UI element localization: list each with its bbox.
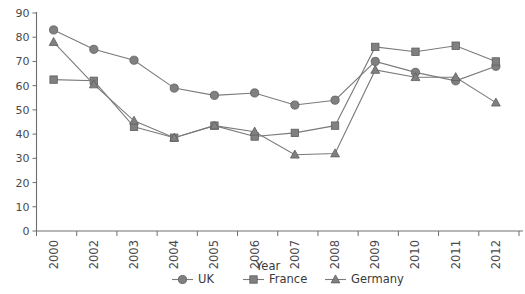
legend-item-uk[interactable]: UK <box>172 272 214 286</box>
series-line <box>54 46 496 138</box>
series-uk <box>50 26 500 109</box>
legend-label: Germany <box>351 272 404 286</box>
y-tick-label: 70 <box>16 55 30 68</box>
data-point-circle <box>331 96 339 104</box>
chart-canvas: 0102030405060708090 20002002200320042005… <box>0 0 525 294</box>
data-point-circle <box>178 275 186 283</box>
y-tick-label: 20 <box>16 177 30 190</box>
chart-legend: UKFranceGermany <box>172 272 404 286</box>
y-tick-label: 30 <box>16 152 30 165</box>
data-point-square <box>412 48 419 55</box>
x-tick-label: 2007 <box>288 240 302 269</box>
data-point-circle <box>210 91 218 99</box>
data-point-circle <box>251 89 259 97</box>
x-tick-label: 2000 <box>47 240 61 269</box>
data-point-square <box>50 76 57 83</box>
y-tick-label: 40 <box>16 128 30 141</box>
x-tick-label: 2010 <box>408 240 422 269</box>
data-point-square <box>291 129 298 136</box>
y-tick-label: 0 <box>23 225 30 238</box>
y-tick-label: 60 <box>16 80 30 93</box>
x-tick-label: 2003 <box>127 240 141 269</box>
data-point-circle <box>170 84 178 92</box>
y-axis: 0102030405060708090 <box>16 7 37 238</box>
data-point-triangle <box>331 275 340 283</box>
data-point-square <box>492 58 499 65</box>
data-point-triangle <box>371 65 380 73</box>
data-point-circle <box>50 26 58 34</box>
x-tick-label: 2009 <box>368 240 382 269</box>
data-point-circle <box>130 56 138 64</box>
x-axis <box>37 231 524 236</box>
series-line <box>54 30 496 105</box>
data-point-circle <box>90 45 98 53</box>
data-point-triangle <box>451 73 460 81</box>
data-point-square <box>372 43 379 50</box>
x-tick-label: 2011 <box>449 240 463 269</box>
x-tick-label: 2012 <box>489 240 503 269</box>
x-tick-label: 2004 <box>167 240 181 269</box>
data-point-circle <box>371 57 379 65</box>
x-axis-title: Year <box>255 259 281 273</box>
series-layer <box>49 26 500 158</box>
y-tick-label: 50 <box>16 104 30 117</box>
x-tick-label: 2008 <box>328 240 342 269</box>
series-france <box>50 42 500 141</box>
data-point-triangle <box>491 98 500 106</box>
data-point-square <box>452 42 459 49</box>
data-point-triangle <box>49 37 58 45</box>
x-tick-label: 2002 <box>87 240 101 269</box>
x-tick-label: 2005 <box>207 240 221 269</box>
series-line <box>54 42 496 155</box>
data-point-square <box>250 276 257 283</box>
legend-label: France <box>269 272 307 286</box>
data-point-circle <box>291 101 299 109</box>
y-tick-label: 10 <box>16 201 30 214</box>
data-point-triangle <box>331 149 340 157</box>
line-chart: 0102030405060708090 20002002200320042005… <box>0 0 525 294</box>
y-tick-label: 90 <box>16 7 30 20</box>
legend-item-france[interactable]: France <box>243 272 307 286</box>
y-tick-label: 80 <box>16 31 30 44</box>
legend-label: UK <box>198 272 214 286</box>
legend-item-germany[interactable]: Germany <box>325 272 404 286</box>
data-point-square <box>331 122 338 129</box>
